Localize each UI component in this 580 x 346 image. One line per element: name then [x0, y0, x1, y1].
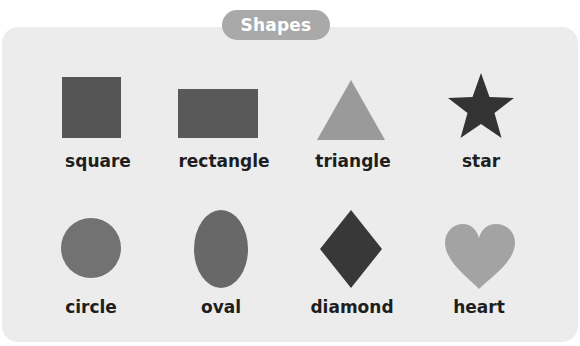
label-square: square	[38, 151, 158, 171]
title-pill: Shapes	[222, 10, 330, 40]
star-icon	[448, 73, 514, 138]
oval-icon	[194, 210, 248, 288]
diamond-icon	[320, 210, 382, 288]
label-star: star	[421, 151, 541, 171]
label-triangle: triangle	[293, 151, 413, 171]
label-diamond: diamond	[292, 297, 412, 317]
label-rectangle: rectangle	[164, 151, 284, 171]
page-title: Shapes	[241, 15, 312, 35]
label-oval: oval	[161, 297, 281, 317]
circle-icon	[61, 218, 121, 278]
triangle-icon	[317, 80, 385, 140]
label-circle: circle	[31, 297, 151, 317]
shapes-grid	[0, 0, 580, 346]
label-heart: heart	[419, 297, 539, 317]
heart-icon	[445, 224, 515, 289]
square-icon	[62, 77, 121, 138]
rectangle-icon	[178, 89, 258, 138]
